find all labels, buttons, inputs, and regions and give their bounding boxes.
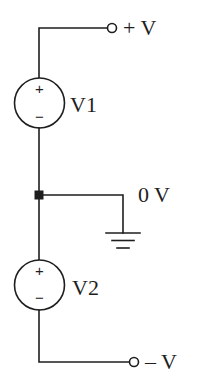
ground-node-label: 0 V xyxy=(138,182,170,207)
voltage-source-v1: + − xyxy=(15,78,65,128)
wire-ground-branch xyxy=(39,195,123,233)
wire-top xyxy=(39,28,108,78)
negative-terminal-label: – V xyxy=(144,349,177,374)
voltage-source-v2: + − xyxy=(15,260,65,310)
ground-icon xyxy=(106,233,140,248)
positive-terminal-icon xyxy=(108,24,117,33)
v1-plus-sign: + xyxy=(35,80,44,97)
circuit-diagram: + V + − V1 0 V + − V2 – V xyxy=(0,0,202,386)
v1-minus-sign: − xyxy=(35,108,44,125)
v2-minus-sign: − xyxy=(35,289,44,306)
v2-label: V2 xyxy=(72,275,99,300)
wire-bottom xyxy=(39,310,130,362)
negative-terminal-icon xyxy=(130,358,139,367)
positive-terminal-label: + V xyxy=(123,15,157,40)
v2-plus-sign: + xyxy=(35,262,44,279)
v1-label: V1 xyxy=(70,92,97,117)
